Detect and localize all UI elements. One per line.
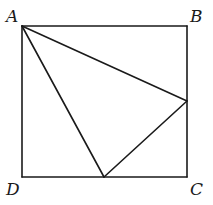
square-abcd: [22, 26, 187, 177]
vertex-labels: A B D C: [4, 6, 203, 199]
label-b: B: [189, 6, 203, 26]
geometry-diagram: A B D C: [0, 0, 213, 205]
segment-ef: [104, 101, 187, 177]
segment-af: [22, 26, 104, 177]
label-a: A: [4, 6, 18, 26]
triangle-aef: [22, 26, 187, 177]
segment-ae: [22, 26, 187, 101]
label-d: D: [5, 179, 20, 199]
label-c: C: [190, 179, 203, 199]
